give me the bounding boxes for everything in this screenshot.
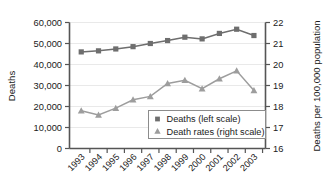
data-point-marker [251, 33, 256, 38]
left-axis-tick-label: 50,000 [34, 39, 62, 49]
chart-figure: 010,00020,00030,00040,00050,00060,000 16… [0, 0, 329, 182]
data-point-marker [165, 38, 170, 43]
y-axis-title-right: Deaths per 100,000 population [311, 20, 322, 151]
left-axis-tick-label: 40,000 [34, 60, 62, 70]
data-point-marker [148, 41, 153, 46]
y-axis-title-left: Deaths [6, 71, 17, 102]
legend-label: Death rates (right scale) [167, 127, 265, 137]
legend-item[interactable]: Death rates (right scale) [154, 127, 264, 137]
left-axis-tick-label: 0 [57, 144, 62, 154]
data-point-marker [234, 27, 239, 32]
left-axis-tick-label: 60,000 [34, 18, 62, 28]
data-point-marker [217, 31, 222, 36]
left-axis-tick-label: 10,000 [34, 123, 62, 133]
left-axis-tick-label: 20,000 [34, 102, 62, 112]
right-axis-tick-label: 16 [273, 144, 283, 154]
right-axis-tick-label: 19 [273, 81, 283, 91]
square-marker-icon [155, 117, 160, 122]
legend-item[interactable]: Deaths (left scale) [155, 114, 240, 124]
dual-axis-line-chart: 010,00020,00030,00040,00050,00060,000 16… [0, 0, 329, 182]
data-point-marker [113, 46, 118, 51]
right-axis-tick-label: 18 [273, 102, 283, 112]
data-point-marker [79, 49, 84, 54]
data-point-marker [182, 35, 187, 40]
data-point-marker [200, 36, 205, 41]
data-point-marker [130, 44, 135, 49]
right-axis-tick-label: 20 [273, 60, 283, 70]
right-axis-tick-label: 17 [273, 123, 283, 133]
left-axis-tick-label: 30,000 [34, 81, 62, 91]
right-axis-tick-label: 22 [273, 18, 283, 28]
data-point-marker [96, 48, 101, 53]
legend-label: Deaths (left scale) [167, 114, 241, 124]
right-axis-tick-label: 21 [273, 39, 283, 49]
chart-legend: Deaths (left scale)Death rates (right sc… [149, 111, 266, 139]
